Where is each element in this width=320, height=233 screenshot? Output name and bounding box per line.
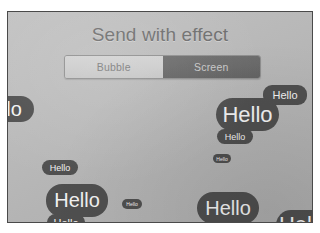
tab-screen[interactable]: Screen — [163, 56, 261, 78]
message-bubble: Hello — [46, 184, 108, 217]
message-bubble: Hello — [42, 160, 78, 175]
message-bubble: Hello — [122, 199, 142, 209]
message-bubble: lo — [7, 96, 34, 122]
message-bubble: Hello — [213, 154, 231, 163]
screenshot-frame: Send with effect Bubble Screen lo Hello … — [7, 11, 313, 223]
message-bubble: Hello — [197, 192, 259, 223]
tab-bubble[interactable]: Bubble — [65, 56, 163, 78]
message-bubble: Hello — [47, 214, 85, 223]
imessage-effect-screen: Send with effect Bubble Screen lo Hello … — [8, 12, 312, 222]
message-bubble: Hello — [216, 98, 279, 131]
page-title: Send with effect — [8, 24, 312, 46]
message-bubble: Hello — [217, 129, 253, 144]
message-bubble: Hello — [276, 210, 313, 223]
effect-type-segmented-control[interactable]: Bubble Screen — [64, 55, 261, 79]
